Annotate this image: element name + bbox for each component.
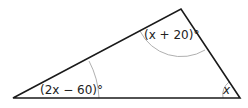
angle-label-top: (x + 20)° <box>144 28 199 42</box>
angle-label-left: (2x − 60)° <box>40 83 103 97</box>
angle-label-right: x <box>223 83 230 97</box>
triangle-diagram <box>0 0 248 108</box>
